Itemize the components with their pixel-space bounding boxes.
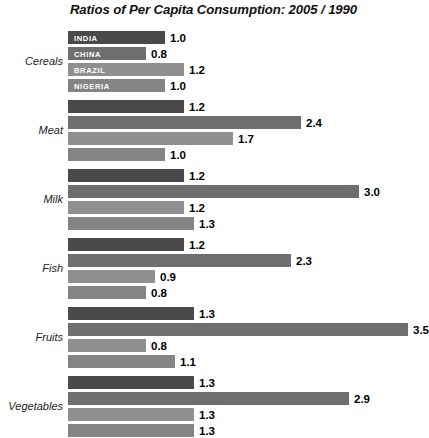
bar-value-label: 2.9: [349, 393, 370, 405]
bar-china: [68, 185, 359, 198]
bar-nigeria: [68, 355, 175, 368]
bar-brazil: [68, 132, 233, 145]
bar-value-label: 1.7: [233, 133, 254, 145]
bar-row: 1.2: [0, 201, 427, 214]
bar-value-label: 0.8: [146, 48, 167, 60]
bar-row: 1.2: [0, 169, 427, 182]
bar-nigeria: [68, 286, 146, 299]
bar-row: 1.3: [0, 424, 427, 437]
bar-row: 1.3: [0, 376, 427, 389]
bar-group: Vegetables1.32.91.31.3: [0, 376, 427, 438]
series-name-label: NIGERIA: [74, 81, 110, 90]
bar-group: CerealsINDIA1.0CHINA0.8BRAZIL1.2NIGERIA1…: [0, 31, 427, 100]
bar-value-label: 0.8: [146, 340, 167, 352]
bar-value-label: 3.5: [408, 324, 429, 336]
bar-value-label: 0.9: [155, 271, 176, 283]
bar-nigeria: [68, 217, 194, 230]
bar-row: 1.7: [0, 132, 427, 145]
bar-brazil: [68, 270, 155, 283]
bar-row: 1.2: [0, 100, 427, 113]
bar-nigeria: NIGERIA: [68, 79, 165, 92]
bar-value-label: 0.8: [146, 287, 167, 299]
bar-india: [68, 307, 194, 320]
bar-china: [68, 323, 408, 336]
bar-group: Fish1.22.30.90.8: [0, 238, 427, 307]
bar-nigeria: [68, 424, 194, 437]
bar-row: 1.3: [0, 217, 427, 230]
bar-brazil: [68, 201, 184, 214]
series-name-label: CHINA: [74, 49, 101, 58]
series-name-label: INDIA: [74, 33, 98, 42]
bar-row: 1.1: [0, 355, 427, 368]
bar-row: 0.8: [0, 339, 427, 352]
bar-row: 2.3: [0, 254, 427, 267]
bar-value-label: 1.2: [184, 64, 205, 76]
plot-area: CerealsINDIA1.0CHINA0.8BRAZIL1.2NIGERIA1…: [0, 31, 427, 438]
bar-row: 1.3: [0, 307, 427, 320]
bar-value-label: 1.2: [184, 202, 205, 214]
bar-row: 3.5: [0, 323, 427, 336]
bar-row: NIGERIA1.0: [0, 79, 427, 92]
bar-india: [68, 100, 184, 113]
bar-value-label: 1.3: [194, 425, 215, 437]
bar-china: CHINA: [68, 47, 146, 60]
bar-row: 0.9: [0, 270, 427, 283]
bar-group: Milk1.23.01.21.3: [0, 169, 427, 238]
bar-value-label: 1.2: [184, 239, 205, 251]
bar-china: [68, 254, 291, 267]
bar-india: [68, 169, 184, 182]
bar-row: 2.4: [0, 116, 427, 129]
bar-value-label: 1.1: [175, 356, 196, 368]
bar-value-label: 1.0: [165, 80, 186, 92]
bar-china: [68, 392, 349, 405]
bar-row: 1.0: [0, 148, 427, 161]
bar-brazil: [68, 408, 194, 421]
bar-value-label: 1.2: [184, 170, 205, 182]
bar-india: [68, 376, 194, 389]
bar-row: 3.0: [0, 185, 427, 198]
series-name-label: BRAZIL: [74, 65, 105, 74]
bar-row: 1.2: [0, 238, 427, 251]
bar-row: 0.8: [0, 286, 427, 299]
bar-value-label: 1.3: [194, 377, 215, 389]
bar-row: BRAZIL1.2: [0, 63, 427, 76]
bar-value-label: 1.3: [194, 308, 215, 320]
bar-value-label: 1.0: [165, 149, 186, 161]
bar-india: INDIA: [68, 31, 165, 44]
bar-row: INDIA1.0: [0, 31, 427, 44]
bar-value-label: 2.3: [291, 255, 312, 267]
chart-title: Ratios of Per Capita Consumption: 2005 /…: [0, 2, 427, 17]
bar-value-label: 1.0: [165, 32, 186, 44]
bar-brazil: BRAZIL: [68, 63, 184, 76]
bar-india: [68, 238, 184, 251]
bar-value-label: 1.2: [184, 101, 205, 113]
bar-row: 1.3: [0, 408, 427, 421]
bar-nigeria: [68, 148, 165, 161]
bar-row: 2.9: [0, 392, 427, 405]
bar-value-label: 2.4: [301, 117, 322, 129]
bar-value-label: 1.3: [194, 218, 215, 230]
bar-china: [68, 116, 301, 129]
bar-group: Meat1.22.41.71.0: [0, 100, 427, 169]
bar-value-label: 1.3: [194, 409, 215, 421]
bar-row: CHINA0.8: [0, 47, 427, 60]
bar-value-label: 3.0: [359, 186, 380, 198]
bar-brazil: [68, 339, 146, 352]
bar-group: Fruits1.33.50.81.1: [0, 307, 427, 376]
